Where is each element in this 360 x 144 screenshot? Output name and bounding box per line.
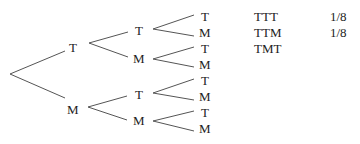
node-l2-3: M	[133, 113, 145, 128]
branch-M-M	[88, 107, 127, 120]
node-l2-2: T	[135, 87, 143, 102]
branch-T-T	[89, 32, 128, 43]
node-l3-4: T	[201, 73, 209, 88]
node-l2-1: M	[133, 51, 145, 66]
node-l3-7: M	[199, 121, 211, 136]
probability-1: 1/8	[330, 25, 347, 40]
branch-TT-M	[153, 29, 194, 36]
branch-TM-T	[153, 47, 194, 59]
node-l3-3: M	[199, 57, 211, 72]
branch-T-M	[89, 43, 128, 57]
branch-M-T	[88, 96, 127, 107]
branch-root-T	[10, 51, 65, 74]
node-l3-5: M	[199, 89, 211, 104]
node-l3-0: T	[201, 9, 209, 24]
node-l2-0: T	[135, 23, 143, 38]
node-l3-1: M	[199, 25, 211, 40]
outcome-2: TMT	[254, 41, 282, 56]
node-l1-1: M	[67, 102, 79, 117]
node-l3-2: T	[201, 41, 209, 56]
branch-MM-T	[153, 111, 194, 121]
tree-svg: T M T M T M T M T M T M T M TTT TTM TMT …	[0, 0, 360, 144]
probability-tree-diagram: T M T M T M T M T M T M T M TTT TTM TMT …	[0, 0, 360, 144]
branch-TT-T	[153, 15, 194, 29]
outcome-1: TTM	[254, 25, 282, 40]
branch-root-M	[10, 74, 65, 98]
node-l3-6: T	[201, 105, 209, 120]
branch-MT-M	[153, 93, 194, 100]
branch-MM-M	[153, 121, 194, 131]
outcome-0: TTT	[254, 9, 278, 24]
node-l1-0: T	[69, 40, 77, 55]
branch-MT-T	[153, 79, 194, 93]
probability-0: 1/8	[330, 9, 347, 24]
branch-TM-M	[153, 59, 194, 67]
